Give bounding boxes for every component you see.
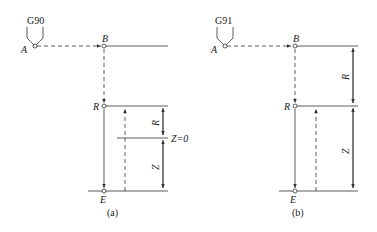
label-point-r: R (283, 101, 290, 112)
z-zero-label: Z=0 (171, 133, 188, 144)
point-e-marker (102, 189, 106, 193)
point-a-marker (223, 44, 227, 48)
label-point-e: E (289, 194, 296, 205)
label-point-a: A (210, 44, 218, 55)
caption-a: (a) (107, 207, 118, 219)
point-r-marker (293, 104, 297, 108)
label-point-a: A (20, 44, 28, 55)
label-point-e: E (99, 194, 106, 205)
point-b-marker (293, 44, 297, 48)
caption-b: (b) (292, 207, 304, 219)
point-a-marker (33, 44, 37, 48)
label-point-b: B (293, 33, 299, 44)
tool-icon (27, 27, 43, 46)
drilling-cycle-diagram: G90 A B R E R Z Z=0 (a) G91 A B R E R Z … (0, 0, 377, 232)
point-r-marker (102, 104, 106, 108)
point-e-marker (293, 189, 297, 193)
mode-label-g90: G90 (27, 15, 44, 26)
dim-z-label: Z (150, 164, 161, 170)
label-point-r: R (92, 101, 99, 112)
mode-label-g91: G91 (215, 15, 232, 26)
dim-r-label: R (150, 120, 161, 127)
label-point-b: B (102, 33, 108, 44)
point-b-marker (102, 44, 106, 48)
tool-icon (217, 27, 233, 46)
dim-r-label: R (340, 74, 351, 81)
dim-z-label: Z (340, 148, 351, 154)
